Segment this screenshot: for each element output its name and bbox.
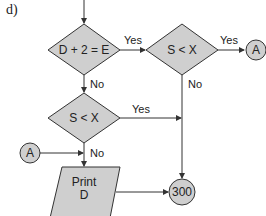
edge-label-no: No <box>90 147 104 159</box>
edge-label-yes: Yes <box>132 103 150 115</box>
decision-d-plus-2-equals-e: D + 2 = E <box>48 24 120 75</box>
edge-label-yes: Yes <box>124 34 142 46</box>
connector-a-right: A <box>246 40 266 60</box>
edge-label-no: No <box>90 78 104 90</box>
svg-text:A: A <box>252 43 260 57</box>
svg-text:S < X: S < X <box>69 111 99 125</box>
svg-text:300: 300 <box>172 185 192 199</box>
svg-text:S < X: S < X <box>167 43 197 57</box>
svg-text:A: A <box>26 146 34 160</box>
connector-300: 300 <box>169 179 195 205</box>
edge-label-no: No <box>188 78 202 90</box>
decision-s-less-than-x-top: S < X <box>146 24 218 75</box>
flowchart: d) D + 2 = E Yes S < X Yes A No No S < X… <box>0 0 266 216</box>
svg-text:D: D <box>80 188 89 202</box>
svg-text:Print: Print <box>72 175 97 189</box>
svg-text:D + 2 = E: D + 2 = E <box>59 43 110 57</box>
print-d-output: Print D <box>50 167 120 216</box>
figure-label: d) <box>6 2 18 18</box>
edge-label-yes: Yes <box>220 34 238 46</box>
connector-a-left: A <box>20 143 40 163</box>
decision-s-less-than-x-bottom: S < X <box>48 93 120 143</box>
